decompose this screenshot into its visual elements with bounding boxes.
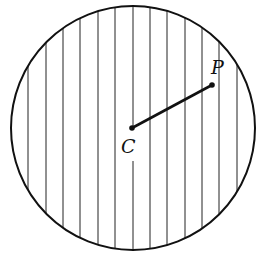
point-p (209, 82, 215, 88)
label-c: C (121, 135, 136, 157)
segment-cp (132, 85, 212, 128)
circle-diagram: C P (0, 0, 266, 255)
label-p: P (210, 56, 225, 78)
point-c (129, 125, 135, 131)
